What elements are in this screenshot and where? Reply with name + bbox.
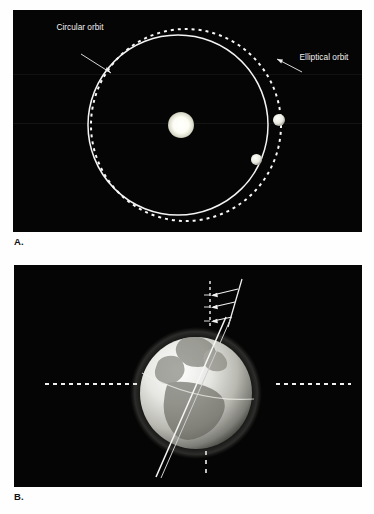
panel-b-graphics (14, 265, 362, 487)
label-circular-orbit-text: Circular orbit (56, 22, 103, 32)
label-elliptical-orbit: Elliptical orbit (288, 52, 360, 62)
panel-a-orbit-diagram: Circular orbit Elliptical orbit (13, 10, 362, 232)
panel-a-caption: A. (14, 236, 24, 247)
sun (168, 112, 194, 138)
planet-on-elliptical-orbit (273, 114, 285, 126)
figure-root: Circular orbit Elliptical orbit A. (0, 0, 374, 514)
label-elliptical-orbit-text: Elliptical orbit (300, 52, 349, 62)
planet-on-circular-orbit (251, 154, 262, 165)
scan-band-1 (13, 74, 362, 75)
label-circular-orbit: Circular orbit (47, 22, 113, 32)
panel-b-caption: B. (14, 491, 24, 502)
panel-b-earth-tilt-diagram: Maximum tilt Todays tilt Minimum tilt 24… (14, 265, 362, 487)
